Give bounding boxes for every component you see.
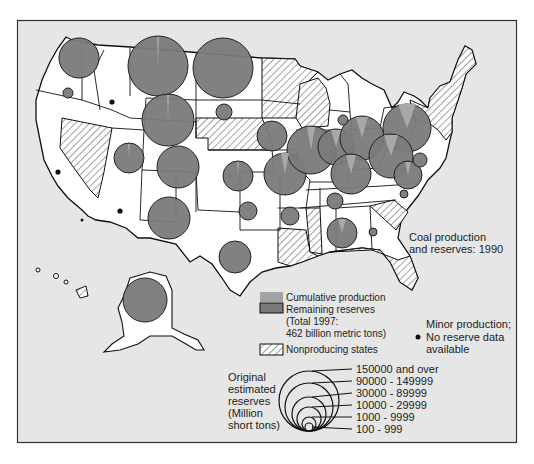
circle-texas — [219, 241, 251, 273]
circle-north-carolina — [400, 190, 408, 198]
legend-minor-dot — [416, 335, 421, 340]
legend-cumulative-label: Cumulative production — [286, 292, 386, 303]
legend-remaining-label: Remaining reserves — [286, 304, 375, 315]
circle-alaska — [123, 278, 167, 322]
size-class-2: 90000 - 149999 — [356, 375, 433, 387]
legend-swatch-cumulative — [260, 292, 283, 302]
size-legend-title-2: estimated — [228, 383, 276, 395]
legend-nonproducing-label: Nonproducing states — [286, 344, 378, 355]
size-legend-title-1: Original — [228, 371, 266, 383]
legend-minor-line2: No reserve data — [426, 331, 505, 343]
legend-minor-line1: Minor production; — [426, 318, 511, 330]
circle-iowa — [257, 121, 287, 151]
legend-swatch-remaining — [260, 303, 283, 313]
circle-michigan — [338, 115, 348, 125]
size-class-4: 10000 - 29999 — [356, 399, 427, 411]
size-legend-title-4: (Million — [228, 407, 263, 419]
legend-remaining-value: 462 billion metric tons) — [286, 328, 386, 339]
legend-minor-line3: available — [426, 343, 469, 355]
legend-remaining-total: (Total 1997: — [286, 316, 338, 327]
dot-california — [55, 169, 60, 174]
circle-maryland — [413, 153, 427, 167]
circle-north-dakota — [193, 38, 253, 98]
circle-south-dakota — [216, 104, 232, 120]
circle-oklahoma — [239, 202, 257, 220]
map-title-line2: and reserves: 1990 — [409, 243, 503, 255]
size-class-3: 30000 - 89999 — [356, 387, 427, 399]
size-legend-title-5: short tons) — [228, 419, 280, 431]
size-class-5: 1000 - 9999 — [356, 411, 415, 423]
dot-arizona — [117, 208, 122, 213]
circle-new-mexico — [148, 197, 190, 239]
size-legend-title-3: reserves — [228, 395, 271, 407]
dot-idaho — [109, 99, 114, 104]
circle-tennessee — [327, 193, 343, 209]
circle-georgia — [369, 228, 377, 236]
circle-oregon — [63, 88, 73, 98]
circle-arkansas — [281, 207, 299, 225]
legend-swatch-nonproducing — [260, 344, 283, 355]
circle-colorado — [157, 146, 199, 188]
size-class-1: 150000 and over — [356, 363, 439, 375]
coal-map: Coal production and reserves: 1990 Cumul… — [0, 0, 534, 464]
size-class-6: 100 - 999 — [356, 423, 402, 435]
circle-washington — [59, 38, 99, 78]
map-title-line1: Coal production — [409, 231, 486, 243]
